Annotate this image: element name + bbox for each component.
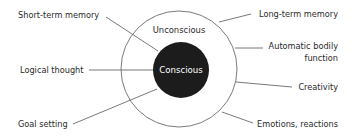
connector-long-term-memory — [219, 14, 251, 22]
unconscious-label: Unconscious — [153, 25, 206, 35]
label-automatic-bodily-function-line2: function — [305, 53, 338, 63]
label-goal-setting: Goal setting — [18, 119, 68, 129]
connector-emotions-reactions — [222, 112, 253, 123]
label-creativity: Creativity — [298, 82, 338, 92]
conscious-label: Conscious — [159, 65, 203, 75]
label-logical-thought: Logical thought — [20, 65, 84, 75]
label-long-term-memory: Long-term memory — [259, 9, 338, 19]
connector-creativity — [236, 82, 292, 87]
label-emotions-reactions: Emotions, reactions — [257, 119, 338, 129]
label-short-term-memory: Short-term memory — [18, 10, 99, 20]
consciousness-diagram: Unconscious Conscious Short-term memory … — [0, 0, 355, 140]
label-automatic-bodily-function-line1: Automatic bodily — [269, 41, 339, 51]
